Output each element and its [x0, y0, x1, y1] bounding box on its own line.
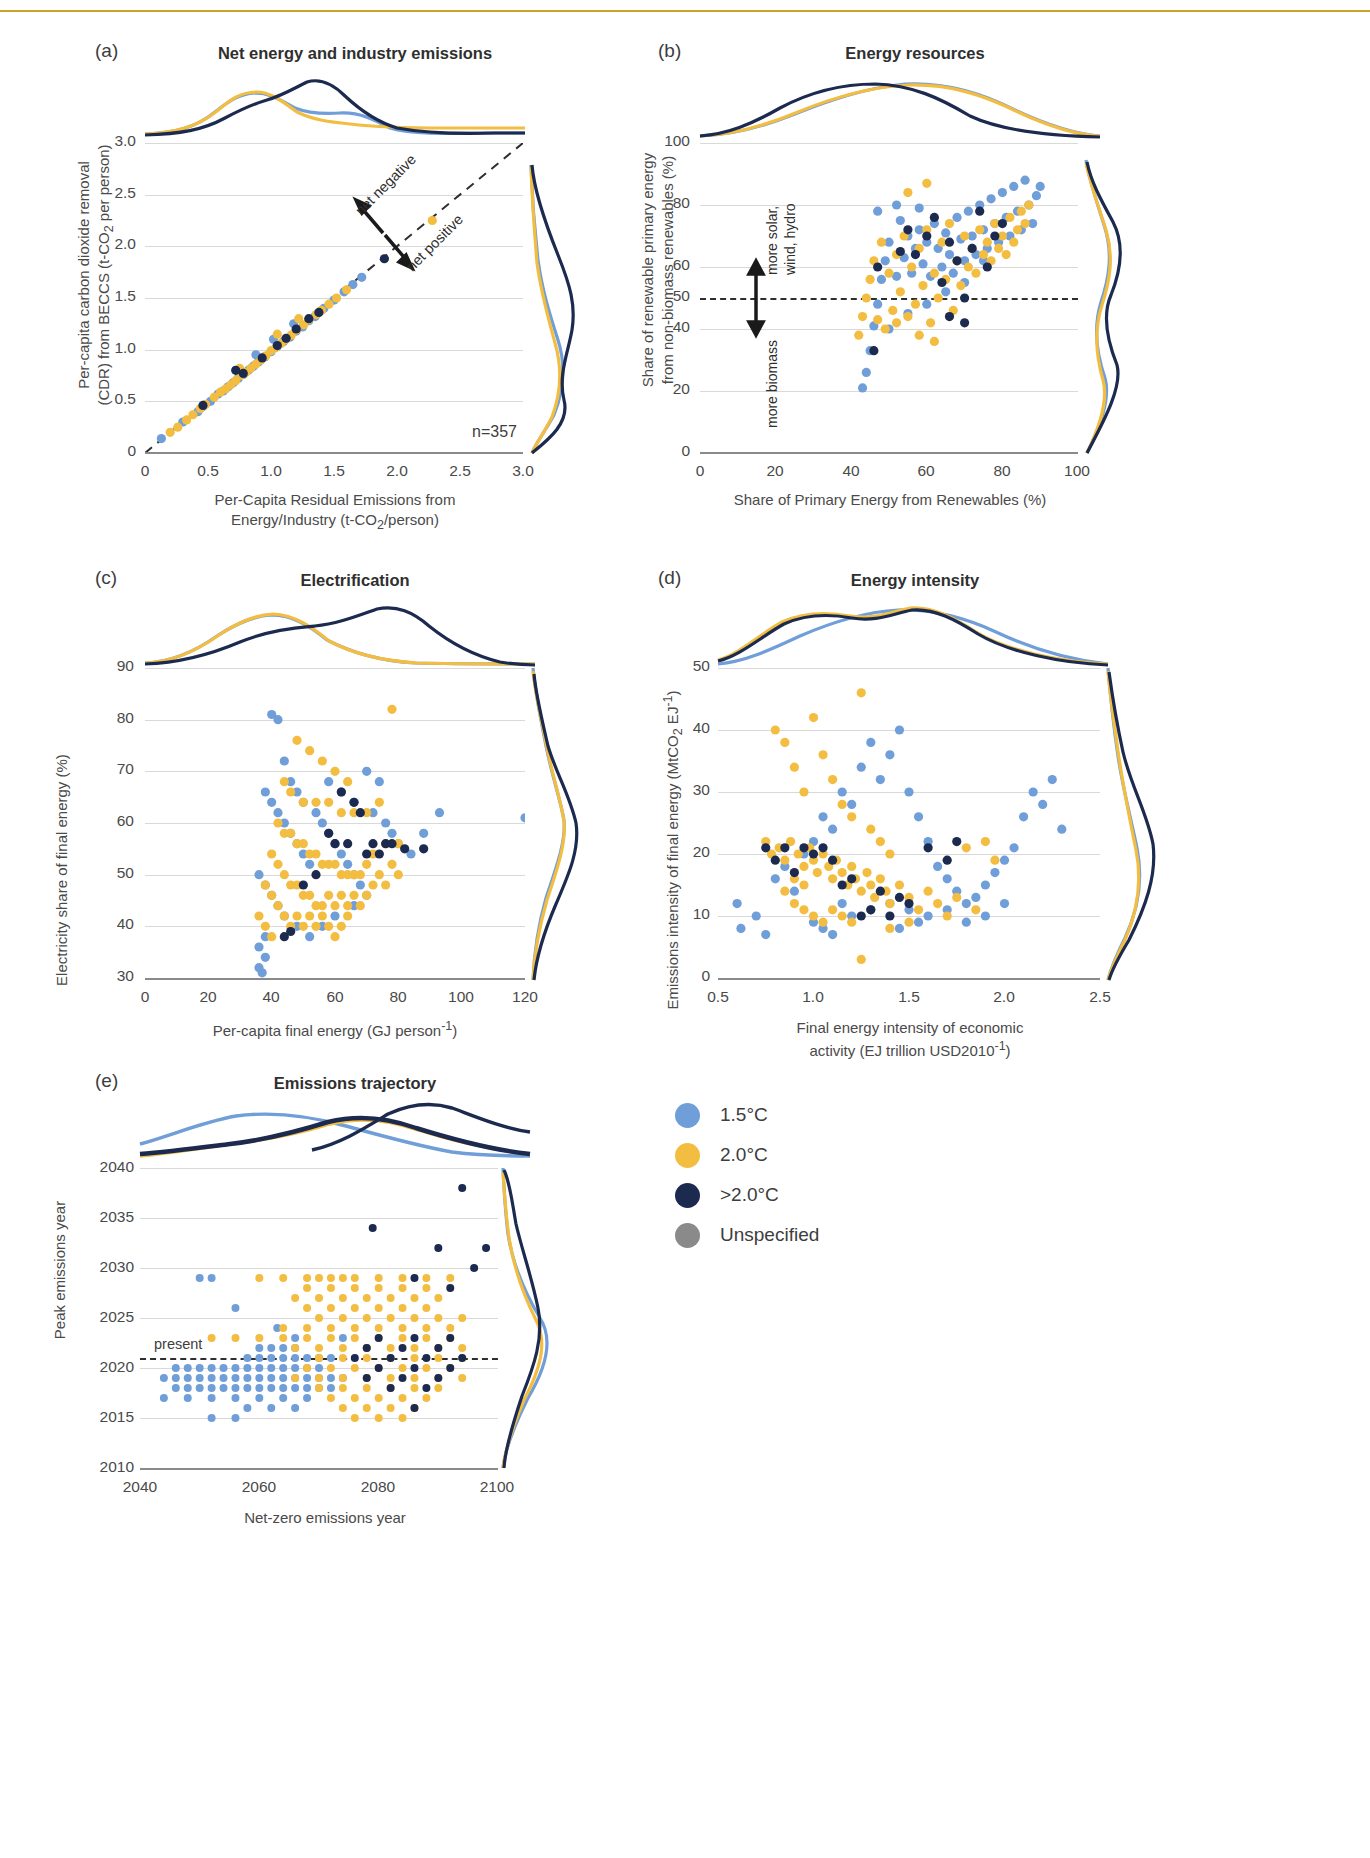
panel-b-letter: (b): [658, 40, 681, 62]
data-point: [286, 927, 295, 936]
data-point: [255, 1344, 263, 1352]
data-point: [799, 905, 808, 914]
data-point: [337, 849, 346, 858]
panel-b-ytick-40: 40: [628, 318, 690, 336]
data-point: [282, 334, 291, 343]
data-point: [964, 207, 973, 216]
data-point: [303, 1304, 311, 1312]
data-point: [318, 818, 327, 827]
data-point: [422, 1274, 430, 1282]
data-point: [960, 231, 969, 240]
panel-d-ytick-40: 40: [648, 719, 710, 737]
data-point: [273, 715, 282, 724]
data-point: [828, 874, 837, 883]
panel-c-xtick-40: 40: [251, 988, 291, 1006]
data-point: [327, 1354, 335, 1362]
data-point: [196, 1374, 204, 1382]
data-point: [255, 1364, 263, 1372]
data-point: [422, 1334, 430, 1342]
data-point: [930, 269, 939, 278]
legend-item-4[interactable]: Unspecified: [675, 1215, 819, 1255]
data-point: [231, 366, 240, 375]
data-point: [943, 856, 952, 865]
figure-canvas: (a) Net energy and industry emissions Pe…: [0, 0, 1370, 1858]
data-point: [881, 324, 890, 333]
panel-c-top-kde: [145, 598, 535, 668]
panel-e-right-kde: [500, 1168, 570, 1468]
data-point: [267, 1364, 275, 1372]
data-point: [291, 1404, 299, 1412]
data-point: [998, 219, 1007, 228]
data-point: [318, 911, 327, 920]
panel-c-ytick-90: 90: [72, 657, 134, 675]
data-point: [458, 1314, 466, 1322]
data-point: [904, 918, 913, 927]
data-point: [458, 1354, 466, 1362]
panel-a-ytick-0: 0: [78, 442, 136, 460]
data-point: [771, 725, 780, 734]
data-point: [243, 1384, 251, 1392]
data-point: [858, 312, 867, 321]
legend-item-1[interactable]: 1.5°C: [675, 1095, 819, 1135]
legend-item-3[interactable]: >2.0°C: [675, 1175, 819, 1215]
data-point: [945, 312, 954, 321]
data-point: [356, 870, 365, 879]
data-point: [267, 1384, 275, 1392]
data-point: [231, 1394, 239, 1402]
data-point: [362, 767, 371, 776]
data-point: [918, 281, 927, 290]
data-point: [1000, 856, 1009, 865]
data-point: [337, 891, 346, 900]
panel-a-ytick-1: 1.0: [78, 339, 136, 357]
panel-d-x-axis-title: Final energy intensity of economic activ…: [730, 1018, 1090, 1062]
data-point: [305, 911, 314, 920]
panel-d-letter: (d): [658, 567, 681, 589]
data-point: [172, 1374, 180, 1382]
panel-e-ytick-2025: 2025: [56, 1308, 134, 1326]
data-point: [279, 1274, 287, 1282]
panel-b-ytick-0: 0: [628, 442, 690, 460]
panel-c-xtick-120: 120: [505, 988, 545, 1006]
panel-d-top-kde: [718, 598, 1108, 668]
data-point: [1009, 238, 1018, 247]
data-point: [434, 1244, 442, 1252]
data-point: [809, 849, 818, 858]
data-point: [267, 1374, 275, 1382]
data-point: [351, 1304, 359, 1312]
data-point: [422, 1384, 430, 1392]
panel-c-plot: [145, 668, 525, 978]
legend-item-2[interactable]: 2.0°C: [675, 1135, 819, 1175]
data-point: [410, 1314, 418, 1322]
data-point: [267, 1354, 275, 1362]
panel-e-ytick-2020: 2020: [56, 1358, 134, 1376]
data-point: [736, 924, 745, 933]
data-point: [387, 1344, 395, 1352]
data-point: [387, 705, 396, 714]
data-point: [434, 1354, 442, 1362]
data-point: [771, 874, 780, 883]
data-point: [343, 901, 352, 910]
data-point: [330, 901, 339, 910]
data-point: [422, 1354, 430, 1362]
data-point: [981, 911, 990, 920]
data-point: [279, 1354, 287, 1362]
data-point: [400, 844, 409, 853]
panel-e-ytick-2040: 2040: [56, 1158, 134, 1176]
data-point: [362, 860, 371, 869]
panel-b-xtick-100: 100: [1057, 462, 1097, 480]
data-point: [818, 750, 827, 759]
data-point: [446, 1364, 454, 1372]
data-point: [375, 870, 384, 879]
data-point: [286, 829, 295, 838]
data-point: [1009, 843, 1018, 852]
data-point: [876, 874, 885, 883]
panel-b-xtick-40: 40: [831, 462, 871, 480]
data-point: [838, 880, 847, 889]
data-point: [930, 337, 939, 346]
data-point: [184, 1384, 192, 1392]
panel-e-title: Emissions trajectory: [160, 1074, 550, 1093]
data-point: [342, 285, 351, 294]
data-point: [399, 1274, 407, 1282]
data-point: [327, 1324, 335, 1332]
data-point: [279, 1334, 287, 1342]
